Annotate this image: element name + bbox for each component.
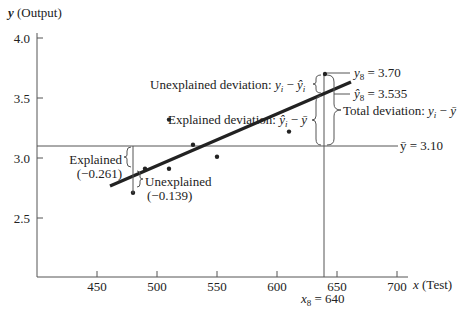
data-point: [143, 167, 147, 171]
y-axis-label: y (Output): [6, 5, 62, 20]
y-tick-label: 2.5: [14, 211, 30, 226]
explained-brace: [312, 96, 321, 145]
x-ticks: 450500550600650700: [87, 271, 407, 294]
explained-deviation-label: Explained deviation: ŷi − ȳ: [168, 112, 307, 129]
x-tick-label: 600: [267, 279, 287, 294]
total-deviation-label: Total deviation: yi − ȳ: [343, 103, 456, 120]
x8-label: x8 = 640: [300, 291, 345, 308]
data-point: [287, 129, 291, 133]
data-point: [215, 155, 219, 159]
mean-line-label: ȳ = 3.10: [400, 138, 443, 153]
x-axis-label: x (Test): [412, 277, 452, 292]
x-tick-label: 450: [87, 279, 107, 294]
x-tick-label: 550: [207, 279, 227, 294]
data-point: [323, 72, 327, 76]
data-point: [191, 143, 195, 147]
y-tick-label: 4.0: [14, 31, 30, 46]
regression-deviation-chart: 2.53.03.54.0 450500550600650700 y (Outpu…: [0, 0, 471, 309]
explained-small-brace: [124, 147, 131, 167]
y-tick-label: 3.0: [14, 151, 30, 166]
unexplained-small-value: (−0.139): [147, 188, 192, 203]
unexplained-brace: [313, 75, 321, 93]
unexplained-small-label: Unexplained: [145, 174, 212, 189]
y-ticks: 2.53.03.54.0: [14, 31, 43, 226]
explained-small-label: Explained: [69, 152, 122, 167]
explained-small-value: (−0.261): [77, 166, 122, 181]
x-tick-label: 700: [387, 279, 407, 294]
unexplained-deviation-label: Unexplained deviation: yi − ŷi: [150, 77, 306, 94]
yhat8-label: ŷ8 = 3.535: [352, 86, 407, 103]
y8-label: y8 = 3.70: [352, 65, 401, 82]
y-tick-label: 3.5: [14, 91, 30, 106]
data-point: [167, 167, 171, 171]
x-tick-label: 500: [147, 279, 167, 294]
